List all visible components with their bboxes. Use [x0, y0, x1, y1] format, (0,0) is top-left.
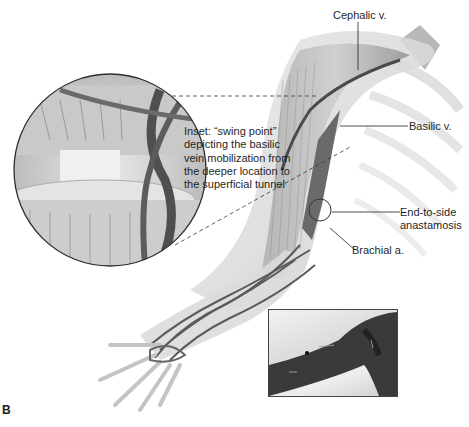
arm-photo-image [269, 310, 397, 396]
inset-caption-line: Inset: “swing point” [184, 125, 290, 138]
panel-letter: B [2, 403, 11, 417]
arm-anatomy-figure: Cephalic v. Basilic v. End-to-side anast… [0, 0, 469, 427]
inset-caption-line: depicting the basilic [184, 138, 290, 151]
label-basilic-vein: Basilic v. [409, 120, 452, 133]
inset-caption-line: the deeper location to [184, 165, 290, 178]
label-brachial-artery: Brachial a. [352, 244, 404, 257]
label-anastomosis-line2: anastamosis [400, 219, 462, 232]
label-cephalic-vein: Cephalic v. [333, 9, 387, 22]
arm-illustration [0, 0, 469, 427]
inset-caption-line: vein mobilization from [184, 152, 290, 165]
inset-caption-line: the superficial tunnel [184, 178, 290, 191]
label-anastomosis-line1: End-to-side [400, 206, 456, 219]
clinical-photo [268, 309, 398, 397]
inset-caption: Inset: “swing point” depicting the basil… [184, 125, 290, 191]
inset-circle [5, 74, 210, 270]
